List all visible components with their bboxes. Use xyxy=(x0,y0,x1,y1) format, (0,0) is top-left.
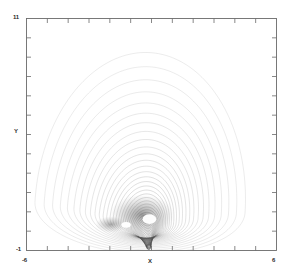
x-axis-max-label: 6 xyxy=(272,257,275,263)
x-axis-min-label: -6 xyxy=(22,257,27,263)
y-axis-min-label: -1 xyxy=(16,246,21,252)
y-axis-max-label: 11 xyxy=(13,14,19,20)
figure-container: 11 -1 -6 6 Y X xyxy=(0,0,292,280)
y-axis-title: Y xyxy=(14,128,18,134)
x-axis-title: X xyxy=(148,258,152,264)
phase-portrait-plot xyxy=(0,0,292,280)
